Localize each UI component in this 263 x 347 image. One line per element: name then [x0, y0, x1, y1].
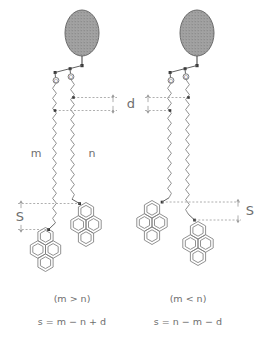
ester-bond-left-outer	[55, 73, 56, 78]
dimension-label-s-right: S	[246, 203, 254, 218]
pyrene-node-left-n	[78, 202, 81, 205]
d-node-right-lower	[169, 109, 172, 112]
headgroup-ellipse-left	[65, 10, 99, 56]
pyrene-node-left-m	[47, 228, 50, 231]
molecular-diagram-figure: O O m n	[0, 0, 263, 347]
chain-label-m-left: m	[31, 147, 42, 160]
caption-equation-right: s = n − m − d	[154, 316, 222, 327]
ester-bond-right-inner	[185, 69, 186, 74]
chain-label-n-left: n	[89, 147, 96, 160]
dimension-label-d: d	[127, 96, 135, 111]
diagram-canvas: O O m n	[0, 0, 263, 347]
dimension-label-s-left: S	[16, 209, 24, 224]
d-node-right-upper	[187, 96, 190, 99]
oxygen-label-right-outer: O	[169, 78, 174, 84]
headgroup-ellipse-right	[180, 10, 214, 56]
oxygen-label-left-outer: O	[54, 78, 59, 84]
canvas-background	[0, 0, 263, 347]
caption-condition-left: (m > n)	[54, 293, 91, 304]
ester-bond-right-outer	[170, 73, 171, 78]
caption-condition-right: (m < n)	[170, 293, 207, 304]
d-node-left-lower	[54, 109, 57, 112]
d-node-left-upper	[72, 96, 75, 99]
caption-equation-left: s = m − n + d	[38, 316, 106, 327]
ester-bond-left-inner	[70, 69, 71, 74]
